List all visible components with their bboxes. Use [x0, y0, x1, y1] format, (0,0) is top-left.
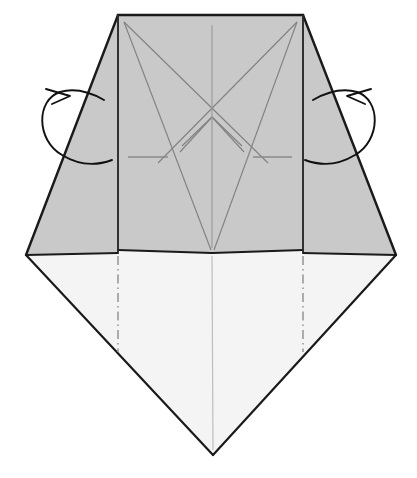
lower-white-kite	[26, 250, 396, 455]
origami-diagram-canvas: Origami folding step diagram	[0, 0, 417, 478]
origami-figure: Origami folding step diagram	[0, 0, 417, 478]
center-gray-panel	[118, 15, 303, 253]
